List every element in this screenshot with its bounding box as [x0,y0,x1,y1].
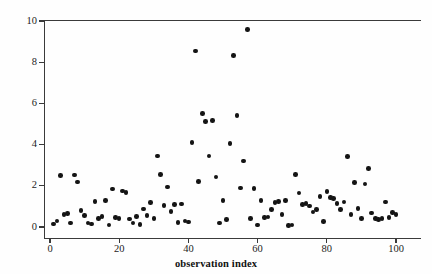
y-tick-6 [39,103,44,104]
x-tick-label-20: 20 [104,244,134,255]
data-point [217,221,222,226]
data-point [373,216,378,221]
data-point [55,219,60,224]
data-point [328,195,333,200]
data-point [325,189,330,194]
data-point [235,113,240,118]
y-axis-line [44,20,45,238]
data-point [366,166,371,171]
data-point [110,187,115,192]
data-point [352,180,357,185]
data-point [262,215,267,220]
data-point [342,200,347,205]
data-point [124,190,129,195]
y-tick-4 [39,144,44,145]
y-tick-8 [39,62,44,63]
data-point [113,215,118,220]
y-tick-label-8: 8 [32,57,37,68]
data-point [248,216,253,221]
data-point [307,204,312,209]
data-point [394,212,399,217]
data-point [62,212,67,217]
data-point [238,186,243,191]
y-tick-0 [39,226,44,227]
data-point [297,191,302,196]
data-point [293,172,298,177]
data-point [58,173,63,178]
x-tick-label-100: 100 [381,244,411,255]
data-point [273,200,278,205]
data-point-layer [0,0,432,274]
data-point [210,118,215,123]
data-point [117,216,122,221]
data-point [321,219,326,224]
data-point [214,175,219,180]
data-point [311,210,316,215]
data-point [387,215,392,220]
data-point [266,215,271,220]
y-tick-label-6: 6 [32,98,37,109]
data-point [51,222,56,227]
data-point [158,172,163,177]
data-point [252,186,257,191]
y-tick-2 [39,185,44,186]
data-point [179,202,184,207]
data-point [183,219,188,224]
data-point [93,199,98,204]
data-point [369,211,374,216]
data-point [96,216,101,221]
data-point [345,154,350,159]
data-point [255,223,260,228]
data-point [224,217,229,222]
data-point [82,213,87,218]
data-point [196,179,201,184]
data-point [283,198,288,203]
data-point [186,220,191,225]
plot-top-frame [44,20,421,21]
data-point [221,198,226,203]
data-point [363,182,368,187]
data-point [280,212,285,217]
x-tick-label-80: 80 [312,244,342,255]
y-tick-label-0: 0 [32,222,37,233]
data-point [89,222,94,227]
data-point [245,27,250,32]
data-point [376,217,381,222]
data-point [359,216,364,221]
data-point [100,214,105,219]
data-point [138,222,143,227]
data-point [231,53,236,58]
data-point [349,212,354,217]
data-point [356,206,361,211]
data-point [259,198,264,203]
x-tick-label-40: 40 [173,244,203,255]
x-axis-line [44,238,421,239]
y-tick-label-4: 4 [32,139,37,150]
data-point [338,207,343,212]
data-point [131,221,136,226]
data-point [200,111,205,116]
data-point [148,200,153,205]
data-point [176,220,181,225]
data-point [107,223,112,228]
y-tick-10 [39,20,44,21]
data-point [380,216,385,221]
scatter-plot-figure: 0246810 020406080100 observation index [0,0,432,274]
data-point [286,223,291,228]
data-point [390,210,395,215]
data-point [276,199,281,204]
data-point [79,208,84,213]
data-point [127,217,132,222]
data-point [72,173,77,178]
data-point [162,203,167,208]
data-point [331,196,336,201]
data-point [203,119,208,124]
data-point [152,216,157,221]
x-axis-label: observation index [0,258,432,269]
data-point [165,185,170,190]
y-tick-label-2: 2 [32,180,37,191]
data-point [169,209,174,214]
y-tick-label-10: 10 [27,16,38,27]
data-point [172,202,177,207]
data-point [155,154,160,159]
